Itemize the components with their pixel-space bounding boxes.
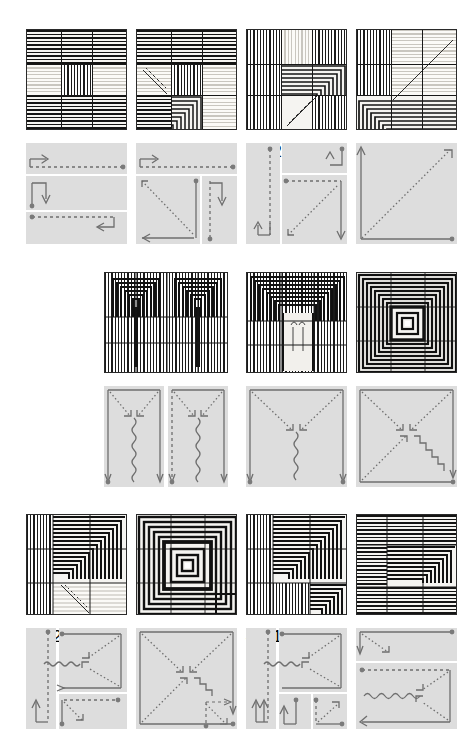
pattern-tile-u8 bbox=[26, 514, 127, 615]
pattern-tile-u5 bbox=[104, 272, 228, 373]
diagram-u10: 4 3 1 2 bbox=[246, 628, 347, 729]
diagram-u9: 1 2 bbox=[136, 628, 237, 729]
diagram-u6: 1 bbox=[246, 386, 347, 487]
diagram-u7: 1 bbox=[356, 386, 457, 487]
pattern-tile-u2 bbox=[136, 29, 237, 130]
pattern-tile-u6 bbox=[246, 272, 347, 373]
diagram-u1: 2 1 3 bbox=[26, 143, 127, 244]
diagram-u4: 1 bbox=[356, 143, 457, 244]
figure-plate: 2 1 3 3 1 bbox=[0, 0, 469, 756]
pattern-tile-u4 bbox=[356, 29, 457, 130]
diagram-u5: 1 2 bbox=[104, 386, 228, 487]
pattern-tile-u9 bbox=[136, 514, 237, 615]
diagram-u11: 1 2 bbox=[356, 628, 457, 729]
diagram-u2: 3 1 2 bbox=[136, 143, 237, 244]
pattern-tile-u11 bbox=[356, 514, 457, 615]
diagram-u8: 3 1 2 bbox=[26, 628, 127, 729]
diagram-u3: 3 1 2 bbox=[246, 143, 347, 244]
pattern-tile-u3 bbox=[246, 29, 347, 130]
pattern-tile-u1 bbox=[26, 29, 127, 130]
pattern-tile-u7 bbox=[356, 272, 457, 373]
pattern-tile-u10 bbox=[246, 514, 347, 615]
